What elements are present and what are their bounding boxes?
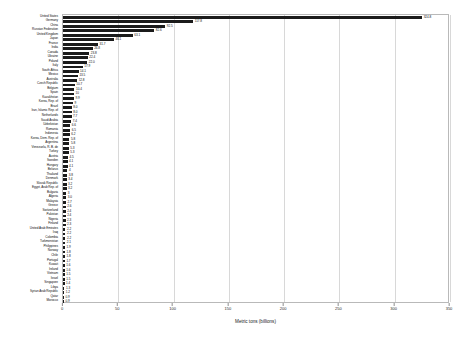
bar-row[interactable]: 2.1 bbox=[63, 242, 448, 245]
bar[interactable] bbox=[63, 97, 74, 100]
bar[interactable] bbox=[63, 246, 65, 249]
bar[interactable] bbox=[63, 178, 67, 181]
bar-row[interactable]: 3.0 bbox=[63, 196, 448, 199]
bar[interactable] bbox=[63, 25, 165, 28]
bar-row[interactable]: 9 bbox=[63, 102, 448, 105]
bar[interactable] bbox=[63, 264, 65, 267]
bar-row[interactable]: 82.6 bbox=[63, 29, 448, 32]
bar-row[interactable]: 1.8 bbox=[63, 251, 448, 254]
bar-row[interactable]: 6.2 bbox=[63, 133, 448, 136]
bar-row[interactable]: 2.4 bbox=[63, 210, 448, 213]
bar[interactable] bbox=[63, 219, 66, 222]
bar-row[interactable]: 324.8 bbox=[63, 16, 448, 19]
bar-row[interactable]: 1.3 bbox=[63, 287, 448, 290]
bar[interactable] bbox=[63, 251, 65, 254]
bar-row[interactable]: 2.2 bbox=[63, 228, 448, 231]
bar-row[interactable]: 31.7 bbox=[63, 43, 448, 46]
bar-row[interactable]: 5.8 bbox=[63, 138, 448, 141]
bar-row[interactable]: 2.2 bbox=[63, 237, 448, 240]
bar[interactable] bbox=[63, 269, 65, 272]
bar[interactable] bbox=[63, 242, 65, 245]
bar-row[interactable]: 2.3 bbox=[63, 219, 448, 222]
bar-row[interactable]: 0.9 bbox=[63, 296, 448, 299]
bar-row[interactable]: 4.1 bbox=[63, 165, 448, 168]
bar-row[interactable]: 1.5 bbox=[63, 273, 448, 276]
bar[interactable] bbox=[63, 138, 69, 141]
bar-row[interactable]: 3.8 bbox=[63, 174, 448, 177]
bar[interactable] bbox=[63, 133, 70, 136]
bar-row[interactable]: 3.2 bbox=[63, 183, 448, 186]
bar[interactable] bbox=[63, 151, 69, 154]
bar[interactable] bbox=[63, 79, 77, 82]
bar[interactable] bbox=[63, 233, 65, 236]
bar[interactable] bbox=[63, 273, 65, 276]
bar-row[interactable]: 4.1 bbox=[63, 160, 448, 163]
bar-row[interactable]: 6.5 bbox=[63, 129, 448, 132]
bar[interactable] bbox=[63, 183, 67, 186]
bar-row[interactable]: 6.6 bbox=[63, 124, 448, 127]
bar[interactable] bbox=[63, 52, 89, 55]
bar-row[interactable]: 1.5 bbox=[63, 278, 448, 281]
bar[interactable] bbox=[63, 106, 72, 109]
bar-row[interactable]: 14.1 bbox=[63, 70, 448, 73]
bar-row[interactable]: 63.1 bbox=[63, 34, 448, 37]
bar-row[interactable]: 12.8 bbox=[63, 79, 448, 82]
bar[interactable] bbox=[63, 129, 70, 132]
bar[interactable] bbox=[63, 215, 66, 218]
bar-row[interactable]: 1.6 bbox=[63, 264, 448, 267]
bar-row[interactable]: 5.3 bbox=[63, 151, 448, 154]
bar-row[interactable]: 4.5 bbox=[63, 156, 448, 159]
bar[interactable] bbox=[63, 66, 83, 69]
bar-row[interactable]: 92.5 bbox=[63, 25, 448, 28]
bar-row[interactable]: 1.4 bbox=[63, 282, 448, 285]
bar[interactable] bbox=[63, 102, 73, 105]
bar[interactable] bbox=[63, 224, 66, 227]
bar[interactable] bbox=[63, 56, 88, 59]
bar-row[interactable]: 1.8 bbox=[63, 255, 448, 258]
bar-row[interactable]: 2.4 bbox=[63, 215, 448, 218]
bar[interactable] bbox=[63, 187, 67, 190]
bar-row[interactable]: 2.6 bbox=[63, 206, 448, 209]
bar[interactable] bbox=[63, 115, 72, 118]
bar[interactable] bbox=[63, 228, 65, 231]
bar[interactable] bbox=[63, 88, 74, 91]
bar-row[interactable]: 9.9 bbox=[63, 97, 448, 100]
bar-row[interactable]: 26.8 bbox=[63, 47, 448, 50]
bar[interactable] bbox=[63, 160, 68, 163]
bar[interactable] bbox=[63, 43, 98, 46]
bar[interactable] bbox=[63, 165, 68, 168]
bar[interactable] bbox=[63, 206, 66, 209]
bar-row[interactable]: 1.6 bbox=[63, 269, 448, 272]
bar-row[interactable]: 117.8 bbox=[63, 20, 448, 23]
bar-row[interactable]: 17.9 bbox=[63, 66, 448, 69]
bar[interactable] bbox=[63, 75, 78, 78]
bar-row[interactable]: 3.4 bbox=[63, 178, 448, 181]
bar-row[interactable]: 3.2 bbox=[63, 187, 448, 190]
bar[interactable] bbox=[63, 255, 65, 258]
bar[interactable] bbox=[63, 260, 65, 263]
bar-row[interactable]: 4 bbox=[63, 169, 448, 172]
bar-row[interactable]: 1.9 bbox=[63, 246, 448, 249]
bar-row[interactable]: 10 bbox=[63, 93, 448, 96]
bar-row[interactable]: 10.7 bbox=[63, 84, 448, 87]
bar-row[interactable]: 3 bbox=[63, 192, 448, 195]
bar[interactable] bbox=[63, 84, 75, 87]
bar-row[interactable]: 13.5 bbox=[63, 75, 448, 78]
bar[interactable] bbox=[63, 278, 65, 281]
bar[interactable] bbox=[63, 20, 193, 23]
bar[interactable] bbox=[63, 174, 67, 177]
bar[interactable] bbox=[63, 296, 64, 299]
bar[interactable] bbox=[63, 34, 133, 37]
bar-row[interactable]: 8.0 bbox=[63, 111, 448, 114]
bar-row[interactable]: 22.4 bbox=[63, 56, 448, 59]
bar[interactable] bbox=[63, 291, 64, 294]
bar-row[interactable]: 46.1 bbox=[63, 38, 448, 41]
bar[interactable] bbox=[63, 142, 69, 145]
bar[interactable] bbox=[63, 192, 66, 195]
bar[interactable] bbox=[63, 111, 72, 114]
bar[interactable] bbox=[63, 287, 64, 290]
bar-row[interactable]: 1.2 bbox=[63, 291, 448, 294]
bar[interactable] bbox=[63, 156, 68, 159]
bar[interactable] bbox=[63, 210, 66, 213]
bar-row[interactable]: 7.7 bbox=[63, 115, 448, 118]
